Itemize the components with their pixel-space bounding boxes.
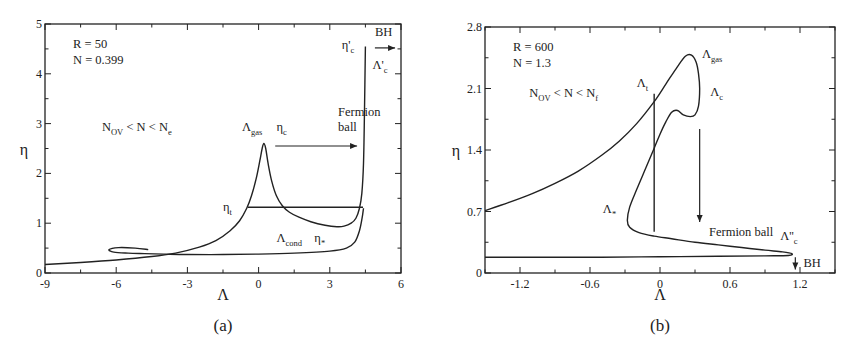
annotation: η*	[314, 231, 325, 248]
x-tick-label: 1.2	[793, 277, 808, 291]
y-tick-label: 4	[36, 67, 42, 81]
y-tick-label: 1	[36, 216, 42, 230]
figure-caption: (a)	[214, 316, 233, 335]
y-tick-label: 0.7	[467, 205, 482, 219]
x-tick-label: 3	[327, 277, 333, 291]
annotation: Λ''c	[780, 229, 798, 246]
figure-caption: (b)	[650, 316, 670, 335]
y-tick-label: 0	[476, 266, 482, 280]
x-tick-label: 6	[398, 277, 404, 291]
annotation: Λc	[710, 85, 723, 102]
x-tick-label: -1.2	[511, 277, 530, 291]
x-tick-label: -3	[182, 277, 192, 291]
annotation: NOV < N < Ne	[102, 120, 172, 137]
annotation: ball	[338, 120, 357, 134]
data-series	[109, 208, 364, 254]
x-tick-label: 0.6	[723, 277, 738, 291]
y-tick-label: 2.8	[467, 20, 482, 34]
annotation: ηt	[223, 200, 233, 217]
chart-panel-b: -1.2-0.600.61.200.71.42.12.8Λη(b)R = 600…	[452, 20, 835, 335]
y-axis-label: η	[20, 141, 28, 159]
x-axis-label: Λ	[654, 286, 666, 303]
x-tick-label: 0	[256, 277, 262, 291]
x-tick-label: -0.6	[581, 277, 600, 291]
annotation: Λgas	[702, 47, 722, 64]
param-R: R = 50	[73, 37, 107, 51]
chart-panel-a: -9-6-3036012345Λη(a)R = 50N = 0.399NOV <…	[20, 17, 404, 335]
x-tick-label: -6	[111, 277, 121, 291]
y-tick-label: 2.1	[467, 82, 482, 96]
x-axis-label: Λ	[217, 286, 229, 303]
annotation: Λ'c	[373, 58, 388, 75]
annotation: ηc	[276, 120, 287, 137]
annotation: BH	[804, 256, 821, 270]
annotation: Λcond	[276, 231, 302, 248]
y-tick-label: 3	[36, 117, 42, 131]
annotation: Λ*	[603, 202, 616, 219]
param-N: N = 0.399	[73, 53, 123, 67]
y-tick-label: 2	[36, 166, 42, 180]
param-R: R = 600	[513, 40, 553, 54]
annotation: Λt	[637, 76, 649, 93]
y-tick-label: 0	[36, 266, 42, 280]
annotation: Fermion	[338, 105, 381, 119]
annotation: Fermion ball	[709, 225, 774, 239]
figure: -9-6-3036012345Λη(a)R = 50N = 0.399NOV <…	[0, 0, 858, 351]
annotation: BH	[375, 25, 392, 39]
y-tick-label: 1.4	[467, 143, 482, 157]
annotation: NOV < N < Nf	[529, 86, 598, 103]
y-tick-label: 5	[36, 17, 42, 31]
param-N: N = 1.3	[513, 56, 551, 70]
annotation: η'c	[342, 38, 355, 55]
annotation: Λgas	[242, 120, 262, 137]
y-axis-label: η	[452, 142, 460, 160]
